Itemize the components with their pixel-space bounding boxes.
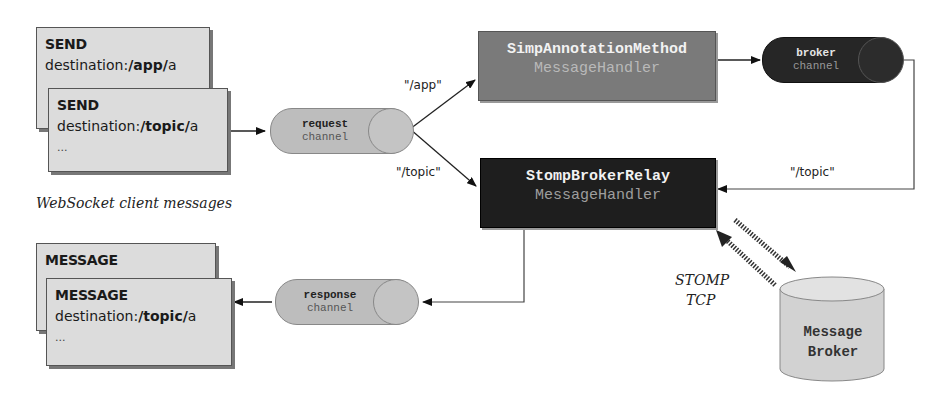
message-kind: MESSAGE xyxy=(45,250,207,271)
message-ellipsis: ... xyxy=(57,137,219,158)
message-kind: SEND xyxy=(45,34,201,55)
route-label-app: "/app" xyxy=(404,78,442,92)
channel-type: channel xyxy=(260,302,400,315)
send-message-card-topic: SEND destination:/topic/a ... xyxy=(48,88,228,172)
message-kind: SEND xyxy=(57,95,219,116)
tcp-link-up xyxy=(722,236,775,285)
simp-annotation-method-handler: SimpAnnotationMethod MessageHandler xyxy=(478,31,716,101)
broker-channel: broker channel xyxy=(762,37,902,83)
message-destination: destination:/topic/a xyxy=(57,116,219,137)
message-card-topic: MESSAGE destination:/topic/a ... xyxy=(46,278,232,366)
channel-name: response xyxy=(260,289,400,302)
handler-title: StompBrokerRelay xyxy=(481,168,715,185)
message-ellipsis: ... xyxy=(55,327,223,348)
channel-type: channel xyxy=(255,131,395,144)
request-channel: request channel xyxy=(270,108,412,154)
route-label-broker-topic: "/topic" xyxy=(790,165,835,179)
channel-type: channel xyxy=(747,60,885,73)
broker-label-line1: Message xyxy=(778,322,888,342)
tcp-link-down xyxy=(735,220,790,267)
stomp-broker-relay-handler: StompBrokerRelay MessageHandler xyxy=(480,158,716,228)
handler-subtitle: MessageHandler xyxy=(481,187,715,204)
channel-name: request xyxy=(255,118,395,131)
message-kind: MESSAGE xyxy=(55,285,223,306)
broker-label-line2: Broker xyxy=(778,342,888,362)
handler-subtitle: MessageHandler xyxy=(479,60,715,77)
message-broker-label: Message Broker xyxy=(778,322,888,362)
protocol-label-stomp: STOMP xyxy=(675,272,729,288)
response-channel: response channel xyxy=(275,279,417,325)
channel-name: broker xyxy=(747,47,885,60)
message-destination: destination:/topic/a xyxy=(55,306,223,327)
handler-title: SimpAnnotationMethod xyxy=(479,41,715,58)
protocol-label-tcp: TCP xyxy=(686,292,715,308)
route-label-topic: "/topic" xyxy=(396,165,441,179)
arrow-relay-to-response xyxy=(423,230,524,302)
message-destination: destination:/app/a xyxy=(45,55,201,76)
client-caption: WebSocket client messages xyxy=(36,195,232,211)
